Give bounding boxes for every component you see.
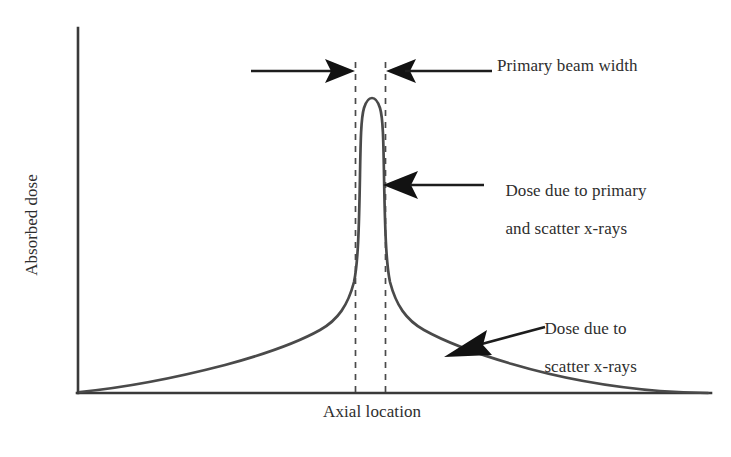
x-axis-label: Axial location (323, 402, 421, 421)
annotation-scatter-only-line1: Dose due to (544, 319, 626, 338)
annotation-primary-and-scatter-line2: and scatter x-rays (505, 219, 627, 238)
y-axis-label-wrapper: Absorbed dose (14, 140, 50, 310)
annotation-scatter-only-line2: scatter x-rays (544, 357, 637, 376)
annotation-primary-and-scatter: Dose due to primary and scatter x-rays (488, 162, 647, 257)
annotation-primary-beam-width: Primary beam width (497, 56, 638, 75)
dose-profile-figure: Absorbed dose Axial location Primary bea… (0, 0, 731, 457)
primary-beam-width-arrows (251, 59, 492, 83)
y-axis-label: Absorbed dose (22, 174, 42, 276)
annotation-scatter-only: Dose due to scatter x-rays (527, 300, 637, 395)
primary-scatter-callout-arrow (383, 171, 484, 199)
annotation-primary-and-scatter-line1: Dose due to primary (505, 181, 646, 200)
